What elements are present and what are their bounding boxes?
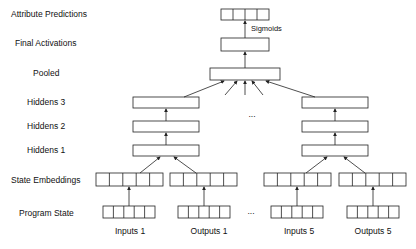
state-embedding-inputs5: [264, 173, 331, 186]
hiddens3-right: [302, 97, 368, 108]
attribute-predictions-vector: [221, 9, 269, 20]
final-activations-box: [221, 38, 269, 51]
state-embedding-outputs5: [339, 173, 406, 186]
program-state-inputs5: [271, 206, 323, 218]
hiddens3-left: [133, 97, 199, 108]
hiddens2-left: [133, 121, 199, 132]
pooled-box: [210, 68, 280, 80]
program-state-inputs1: [103, 206, 155, 218]
program-state-outputs1: [178, 206, 230, 218]
hiddens1-left: [133, 145, 199, 156]
state-embedding-inputs1: [96, 173, 163, 186]
program-state-outputs5: [347, 206, 399, 218]
hiddens1-right: [302, 145, 368, 156]
state-embedding-outputs1: [170, 173, 237, 186]
hiddens2-right: [302, 121, 368, 132]
network-diagram: [0, 0, 416, 249]
